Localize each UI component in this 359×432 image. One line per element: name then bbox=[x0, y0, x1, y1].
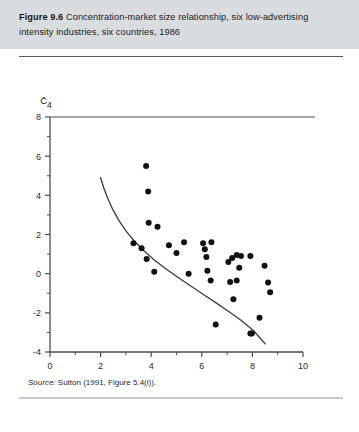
scatter-points-group bbox=[130, 163, 273, 336]
scatter-point bbox=[203, 254, 209, 260]
scatter-point bbox=[145, 188, 151, 194]
scatter-point bbox=[143, 163, 149, 169]
scatter-point bbox=[256, 315, 262, 321]
scatter-point bbox=[166, 242, 172, 248]
x-tick-label: 2 bbox=[98, 361, 103, 371]
scatter-point bbox=[249, 330, 255, 336]
scatter-point bbox=[262, 263, 268, 269]
scatter-point bbox=[247, 253, 253, 259]
scatter-point bbox=[234, 278, 240, 284]
x-tick-label: 6 bbox=[199, 361, 204, 371]
source-label: Source: bbox=[28, 378, 56, 387]
scatter-point bbox=[265, 279, 271, 285]
scatter-point bbox=[267, 289, 273, 295]
figure-caption: Figure 9.6 Concentration-market size rel… bbox=[19, 10, 344, 39]
x-tick-label: 4 bbox=[149, 361, 154, 371]
envelope-curve bbox=[101, 178, 265, 344]
y-tick-label: 2 bbox=[36, 230, 41, 240]
scatter-point bbox=[130, 240, 136, 246]
y-tick-label: -4 bbox=[33, 347, 41, 357]
y-tick-label: 0 bbox=[36, 269, 41, 279]
scatter-plot-svg: -4-2024680246810C̄4ln(S/σ) bbox=[0, 58, 359, 376]
y-axis-title: C̄4 bbox=[40, 95, 52, 110]
y-tick-label: 6 bbox=[36, 152, 41, 162]
scatter-point bbox=[204, 268, 210, 274]
scatter-point bbox=[230, 296, 236, 302]
header-divider bbox=[19, 56, 343, 57]
scatter-point bbox=[213, 322, 219, 328]
scatter-point bbox=[202, 246, 208, 252]
scatter-point bbox=[146, 220, 152, 226]
scatter-point bbox=[151, 269, 157, 275]
scatter-point bbox=[238, 253, 244, 259]
figure-container: Figure 9.6 Concentration-market size rel… bbox=[0, 0, 359, 432]
plot-area: -4-2024680246810C̄4ln(S/σ) bbox=[0, 58, 359, 376]
scatter-point bbox=[208, 278, 214, 284]
figure-title-text: Concentration-market size relationship, … bbox=[19, 12, 308, 37]
scatter-point bbox=[144, 256, 150, 262]
scatter-point bbox=[200, 240, 206, 246]
figure-number: Figure 9.6 bbox=[19, 12, 63, 22]
source-note: Source: Sutton (1991, Figure 5.4(i)). bbox=[28, 378, 156, 387]
source-citation: Sutton (1991, Figure 5.4(i)). bbox=[56, 378, 157, 387]
x-axis-title: ln(S/σ) bbox=[293, 374, 322, 376]
scatter-point bbox=[236, 265, 242, 271]
envelope-curve-group bbox=[101, 178, 265, 344]
scatter-point bbox=[155, 224, 161, 230]
axes-group bbox=[45, 117, 315, 357]
scatter-point bbox=[208, 239, 214, 245]
scatter-point bbox=[186, 271, 192, 277]
footer-divider bbox=[19, 397, 343, 399]
y-tick-label: 4 bbox=[36, 191, 41, 201]
x-tick-label: 10 bbox=[298, 361, 308, 371]
y-tick-label: 8 bbox=[36, 112, 41, 122]
scatter-point bbox=[139, 245, 145, 251]
scatter-point bbox=[227, 279, 233, 285]
x-tick-label: 8 bbox=[250, 361, 255, 371]
scatter-point bbox=[174, 250, 180, 256]
axis-labels-group: -4-2024680246810C̄4ln(S/σ) bbox=[33, 95, 321, 376]
y-tick-label: -2 bbox=[33, 308, 41, 318]
x-tick-label: 0 bbox=[47, 361, 52, 371]
scatter-point bbox=[181, 239, 187, 245]
